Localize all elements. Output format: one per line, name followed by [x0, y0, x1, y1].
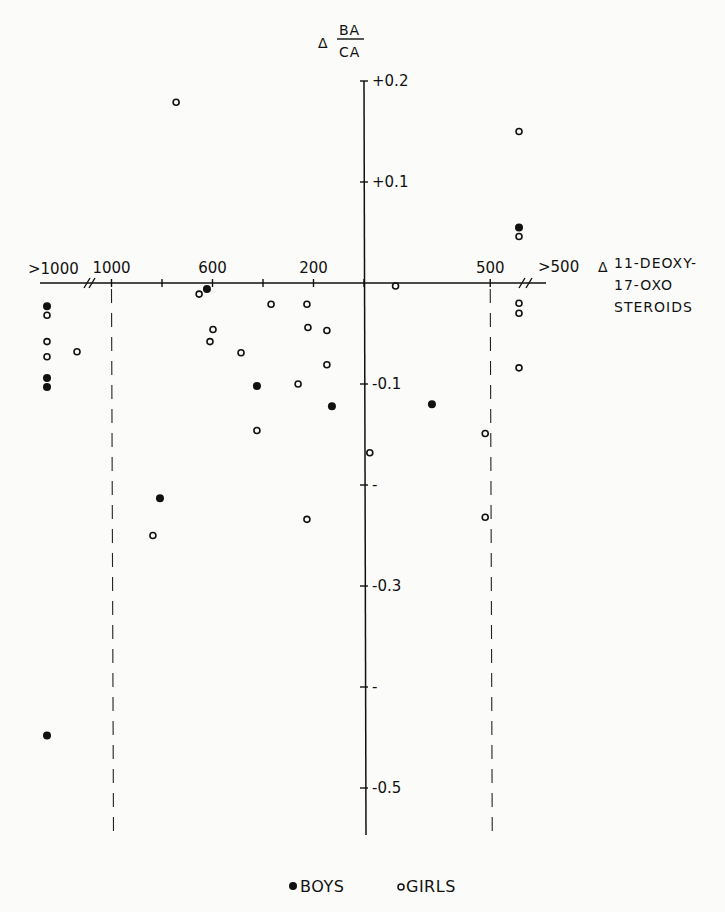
point-girls [173, 99, 179, 105]
point-boys [203, 285, 211, 293]
point-girls [324, 362, 330, 368]
y-tick-label: - [372, 476, 377, 494]
point-girls [254, 427, 260, 433]
point-boys [43, 383, 51, 391]
point-boys [253, 382, 261, 390]
x-reference-dashed-line [112, 289, 114, 835]
y-tick-label: -0.1 [372, 375, 401, 393]
x-overflow-left-label: >1000 [28, 260, 79, 278]
y-tick-label: +0.1 [372, 173, 408, 191]
x-axis-title-line-1: 11-DEOXY- [614, 255, 697, 271]
legend-girls-marker [398, 884, 404, 890]
x-tick-label: 200 [299, 259, 328, 277]
legend-girls-label: GIRLS [406, 877, 456, 896]
x-axis-title-line-2: 17-OXO [614, 277, 673, 293]
point-girls [516, 129, 522, 135]
point-boys [328, 402, 336, 410]
point-boys [43, 731, 51, 739]
y-axis-numerator: BA [339, 22, 360, 38]
point-girls [238, 350, 244, 356]
point-boys [43, 374, 51, 382]
point-girls [516, 300, 522, 306]
tick-marks [112, 81, 491, 788]
point-girls [207, 339, 213, 345]
point-girls [44, 354, 50, 360]
point-girls [74, 349, 80, 355]
point-girls [304, 516, 310, 522]
point-girls [196, 291, 202, 297]
y-tick-label: -0.5 [372, 779, 401, 797]
axes [40, 81, 546, 835]
y-tick-label: -0.3 [372, 577, 401, 595]
x-tick-label: 500 [476, 259, 505, 277]
x-tick-label: 600 [198, 259, 227, 277]
legend: BOYS GIRLS [289, 877, 456, 896]
point-girls [516, 365, 522, 371]
x-tick-label: 1000 [92, 259, 130, 277]
y-tick-label: +0.2 [372, 72, 408, 90]
point-girls [268, 301, 274, 307]
point-girls [367, 450, 373, 456]
point-girls [324, 327, 330, 333]
point-girls [150, 533, 156, 539]
point-girls [304, 301, 310, 307]
data-points [43, 99, 523, 739]
y-axis-delta-symbol: Δ [318, 35, 329, 51]
point-girls [393, 283, 399, 289]
x-axis-title-line-3: STEROIDS [614, 299, 693, 315]
tick-labels: +0.2+0.1-0.1--0.3--0.51000600200500 [92, 72, 504, 797]
point-boys [43, 302, 51, 310]
y-axis-title: Δ BA CA [318, 22, 364, 60]
y-tick-label: - [372, 678, 377, 696]
point-girls [482, 514, 488, 520]
y-axis-denominator: CA [339, 44, 360, 60]
reference-lines [112, 289, 493, 835]
point-girls [516, 234, 522, 240]
point-boys [515, 223, 523, 231]
point-girls [295, 381, 301, 387]
x-reference-dashed-line [490, 289, 492, 835]
x-axis-delta-symbol: Δ [598, 259, 609, 275]
point-girls [44, 312, 50, 318]
point-girls [482, 430, 488, 436]
point-girls [305, 324, 311, 330]
y-axis-line [364, 81, 366, 835]
x-axis-title: Δ 11-DEOXY- 17-OXO STEROIDS [598, 255, 697, 315]
point-boys [156, 494, 164, 502]
x-overflow-right-label: >500 [538, 258, 579, 276]
scatter-chart: +0.2+0.1-0.1--0.3--0.51000600200500 Δ BA… [0, 0, 725, 912]
point-girls [44, 339, 50, 345]
point-girls [210, 326, 216, 332]
point-girls [516, 310, 522, 316]
legend-boys-marker [289, 882, 297, 890]
point-boys [428, 400, 436, 408]
legend-boys-label: BOYS [300, 877, 344, 896]
